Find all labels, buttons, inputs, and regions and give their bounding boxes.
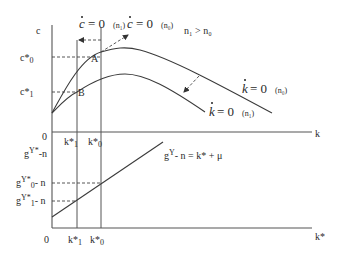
- cdot-n0-label: c = 0 (n₀): [127, 16, 173, 31]
- g-star-0-label: gY*0- n: [16, 175, 46, 190]
- svg-text:= 0: = 0: [136, 16, 153, 31]
- top-origin-label: 0: [42, 131, 47, 142]
- growth-rate-line: [52, 142, 163, 217]
- bottom-k-star-0-label: k*0: [90, 234, 104, 247]
- bottom-k-star-1-label: k*1: [68, 234, 82, 247]
- cdot-n1-label: c = 0 (n₁): [79, 16, 125, 31]
- top-panel: c k 0 c*0 c*1 k*1 k*0 A B c = 0 (n₁) c =…: [20, 16, 320, 228]
- k-star-axis-label: k*: [315, 231, 325, 242]
- point-a-label: A: [91, 53, 99, 64]
- point-b-label: B: [78, 87, 85, 98]
- bottom-origin-label: 0: [44, 234, 49, 245]
- kdot-n0-curve: [52, 48, 272, 113]
- growth-equation-label: gY- n = k* + μ: [164, 148, 222, 161]
- c-star-0-label: c*0: [20, 52, 33, 65]
- c-star-1-label: c*1: [20, 86, 33, 99]
- pointer-arrow: [101, 35, 128, 52]
- svg-text:= 0: = 0: [88, 16, 105, 31]
- kdot-n1-label: k = 0 (n₁): [209, 102, 254, 119]
- bottom-panel: gY*-n gY*0- n gY*1- n gY- n = k* + μ 0 k…: [16, 142, 325, 247]
- svg-text:(n₁): (n₁): [113, 21, 125, 30]
- curve-shift-arrow: [184, 76, 199, 92]
- kdot-n0-label: k = 0 (n₀): [242, 79, 287, 96]
- top-k-star-0-label: k*0: [88, 136, 102, 149]
- svg-text:k: k: [209, 104, 215, 119]
- svg-text:k: k: [242, 81, 248, 96]
- g-axis-title: gY*-n: [24, 146, 47, 159]
- top-k-star-1-label: k*1: [64, 136, 78, 149]
- solow-growth-diagram: c k 0 c*0 c*1 k*1 k*0 A B c = 0 (n₁) c =…: [0, 0, 340, 254]
- svg-text:= 0: = 0: [250, 81, 267, 96]
- kdot-n1-curve: [52, 74, 205, 113]
- k-axis-label: k: [315, 128, 320, 139]
- g-star-1-label: gY*1- n: [16, 193, 46, 208]
- svg-text:(n₀): (n₀): [275, 86, 287, 95]
- svg-text:= 0: = 0: [217, 104, 234, 119]
- c-axis-label: c: [36, 25, 41, 36]
- svg-text:(n₁): (n₁): [242, 109, 254, 118]
- svg-text:c: c: [127, 16, 133, 31]
- condition-note: n₁ > n₀: [184, 25, 212, 36]
- svg-text:c: c: [79, 16, 85, 31]
- svg-text:(n₀): (n₀): [161, 21, 173, 30]
